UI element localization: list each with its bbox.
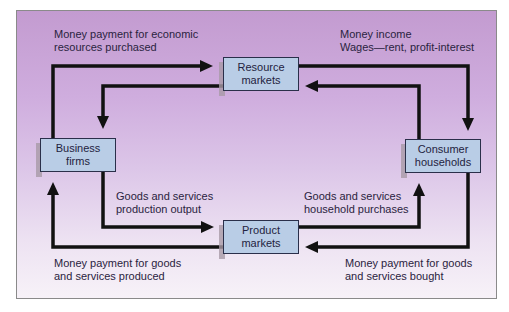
flow-resource-to-consumer: [299, 66, 468, 120]
label-line: and services produced: [54, 270, 181, 283]
label-line: Money payment for goods: [345, 257, 472, 270]
label-line: resources purchased: [54, 41, 198, 54]
label-line: Money payment for goods: [54, 257, 181, 270]
node-product-markets: Productmarkets: [223, 220, 299, 254]
arrowhead-left-icon: [305, 80, 318, 92]
arrowhead-right-icon: [200, 60, 213, 72]
label-bottom-right: Money payment for goods and services bou…: [345, 257, 472, 282]
label-line: Wages—rent, profit-interest: [340, 41, 474, 54]
node-label: households: [415, 156, 471, 168]
flow-firms-to-resource: [53, 66, 202, 138]
node-label: markets: [241, 237, 280, 249]
node-label: Consumer: [418, 143, 469, 155]
arrowhead-up-icon: [413, 183, 425, 196]
arrowhead-left-icon: [305, 241, 318, 253]
label-mid-right: Goods and services household purchases: [304, 190, 409, 215]
arrowhead-right-icon: [201, 221, 214, 233]
node-label: Product: [242, 224, 280, 236]
node-label: markets: [241, 74, 280, 86]
node-resource-markets: Resourcemarkets: [223, 57, 299, 91]
arrowhead-down-icon: [97, 116, 109, 129]
label-line: household purchases: [304, 203, 409, 216]
label-line: Money payment for economic: [54, 28, 198, 41]
flow-consumer-to-resource: [315, 86, 419, 139]
label-top-left: Money payment for economic resources pur…: [54, 28, 198, 53]
label-line: Goods and services: [304, 190, 409, 203]
node-label: Resource: [237, 61, 284, 73]
node-business-firms: Businessfirms: [40, 138, 116, 172]
flow-resource-to-firms: [103, 86, 223, 118]
arrowhead-down-icon: [462, 118, 474, 131]
node-label: firms: [66, 155, 90, 167]
label-line: production output: [116, 203, 213, 216]
label-mid-left: Goods and services production output: [116, 190, 213, 215]
node-label: Business: [56, 142, 101, 154]
label-bottom-left: Money payment for goods and services pro…: [54, 257, 181, 282]
label-line: Money income: [340, 28, 474, 41]
label-line: Goods and services: [116, 190, 213, 203]
arrowhead-up-icon: [47, 182, 59, 195]
label-top-right: Money income Wages—rent, profit-interest: [340, 28, 474, 53]
label-line: and services bought: [345, 270, 472, 283]
node-consumer-households: Consumerhouseholds: [405, 139, 481, 173]
